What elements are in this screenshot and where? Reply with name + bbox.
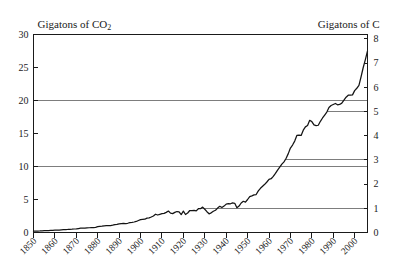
x-axis-tick-label-1920: 1920 <box>168 236 189 257</box>
x-axis-tick-label-1890: 1890 <box>104 236 125 257</box>
right-axis-title: Gigatons of C <box>318 18 380 30</box>
data-series-co2-emissions <box>34 51 368 231</box>
right-axis-tick-label-1: 1 <box>374 203 379 214</box>
x-axis-tick-label-1870: 1870 <box>61 236 82 257</box>
x-axis-tick-label-1960: 1960 <box>253 236 274 257</box>
left-axis-tick-label-15: 15 <box>19 128 29 139</box>
right-axis-tick-label-3: 3 <box>374 154 379 165</box>
chart-canvas: 0510152025300123456781850186018701880189… <box>0 0 396 267</box>
x-axis-tick-label-1900: 1900 <box>125 236 146 257</box>
left-axis-tick-label-5: 5 <box>24 194 29 205</box>
x-axis-tick-label-1950: 1950 <box>232 236 253 257</box>
co2-emissions-chart: 0510152025300123456781850186018701880189… <box>0 0 396 267</box>
right-axis-tick-label-8: 8 <box>374 33 379 44</box>
right-axis-tick-label-2: 2 <box>374 178 379 189</box>
left-axis-tick-label-10: 10 <box>19 161 29 172</box>
x-axis-tick-label-1940: 1940 <box>211 236 232 257</box>
right-axis-tick-label-6: 6 <box>374 82 379 93</box>
left-axis-tick-label-0: 0 <box>24 227 29 238</box>
left-axis-title: Gigatons of CO2 <box>38 18 112 33</box>
x-axis-tick-label-1980: 1980 <box>296 236 317 257</box>
x-axis-tick-label-2000: 2000 <box>339 236 360 257</box>
x-axis-tick-label-1990: 1990 <box>318 236 339 257</box>
right-axis-tick-label-5: 5 <box>374 106 379 117</box>
x-axis-tick-label-1850: 1850 <box>18 236 39 257</box>
x-axis-tick-label-1860: 1860 <box>39 236 60 257</box>
left-axis-tick-label-30: 30 <box>19 29 29 40</box>
plot-frame <box>34 35 368 233</box>
left-axis-tick-label-20: 20 <box>19 95 29 106</box>
x-axis-tick-label-1910: 1910 <box>146 236 167 257</box>
x-axis-tick-label-1930: 1930 <box>189 236 210 257</box>
right-axis-tick-label-0: 0 <box>374 227 379 238</box>
left-axis-tick-label-25: 25 <box>19 62 29 73</box>
right-axis-tick-label-7: 7 <box>374 57 379 68</box>
x-axis-tick-label-1880: 1880 <box>82 236 103 257</box>
right-axis-tick-label-4: 4 <box>374 130 379 141</box>
x-axis-tick-label-1970: 1970 <box>275 236 296 257</box>
